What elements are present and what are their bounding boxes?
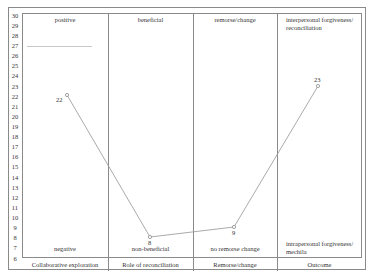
- data-point-label: 23: [314, 76, 321, 83]
- data-point-marker: [65, 93, 68, 96]
- data-point-label: 22: [56, 96, 63, 103]
- data-series-line: [0, 0, 372, 280]
- data-point-label: 8: [148, 239, 151, 246]
- data-point-label: 9: [232, 229, 235, 236]
- data-point-marker: [316, 84, 319, 87]
